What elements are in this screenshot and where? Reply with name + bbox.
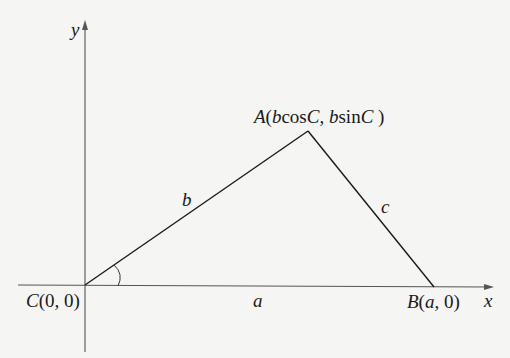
y-axis-arrow-icon [82, 20, 88, 30]
side-b-label: b [182, 190, 192, 209]
side-c [308, 131, 434, 287]
x-axis [18, 285, 490, 287]
side-a-label: a [253, 291, 263, 310]
side-b [85, 131, 308, 285]
point-a-label: A(bcosC, bsinC ) [254, 107, 384, 126]
y-axis-label: y [71, 20, 79, 39]
point-b-label: B(a, 0) [407, 292, 460, 311]
x-axis-label: x [484, 291, 492, 310]
side-c-label: c [381, 197, 389, 216]
angle-c-arc [114, 265, 120, 286]
triangle-diagram: y x A(bcosC, bsinC ) C(0, 0) B(a, 0) b c… [0, 0, 510, 358]
point-c-label: C(0, 0) [26, 291, 80, 310]
